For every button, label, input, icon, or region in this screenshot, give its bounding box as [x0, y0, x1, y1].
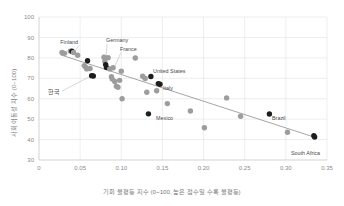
y-tick-label: 100: [24, 14, 35, 20]
y-axis-title: 사회 이동성 지수 (0~100): [10, 69, 18, 138]
data-point: [119, 96, 124, 101]
data-point: [285, 130, 290, 135]
y-tick-label: 80: [27, 55, 34, 61]
data-point: [133, 55, 138, 60]
point-label-mexico: Mexico: [156, 115, 173, 121]
data-point: [238, 114, 243, 119]
data-point: [115, 85, 120, 90]
x-tick-label: 0.10: [115, 165, 127, 171]
data-point: [202, 125, 207, 130]
data-point-highlighted: [146, 111, 151, 116]
data-point: [110, 65, 115, 70]
data-point: [154, 88, 159, 93]
x-tick-label: 0.35: [321, 165, 333, 171]
data-point: [75, 53, 80, 58]
y-tick-label: 90: [27, 35, 34, 41]
y-tick-label: 30: [27, 157, 34, 163]
data-point-highlighted: [91, 73, 96, 78]
x-axis-title: 기회 불평등 지수 (0~100, 높은 점수일 수록 불평등): [103, 188, 240, 196]
x-tick-label: 0.25: [239, 165, 251, 171]
point-label-finland: Finland: [60, 39, 78, 45]
y-tick-label: 40: [27, 137, 34, 143]
x-tick-label: 0.15: [157, 165, 169, 171]
data-point-highlighted: [312, 134, 317, 139]
point-label-united-states: United States: [153, 68, 186, 74]
point-label-한국: 한국: [48, 88, 60, 96]
y-tick-label: 50: [27, 116, 34, 122]
x-tick-label: 0.30: [280, 165, 292, 171]
data-point: [62, 51, 67, 56]
data-point: [188, 108, 193, 113]
x-tick-label: 0.20: [198, 165, 210, 171]
data-point-highlighted: [148, 74, 153, 79]
data-point: [105, 55, 110, 60]
point-label-italy: Italy: [163, 85, 173, 91]
data-point: [224, 95, 229, 100]
point-label-brazil: Brazil: [272, 115, 285, 121]
data-point: [119, 68, 124, 73]
data-point: [144, 89, 149, 94]
chart-background: [0, 0, 344, 206]
data-point-highlighted: [157, 82, 162, 87]
chart-canvas: 30405060708090100 00.050.100.150.200.250…: [0, 0, 344, 206]
data-point-highlighted: [85, 58, 90, 63]
data-point: [165, 101, 170, 106]
y-tick-label: 70: [27, 75, 34, 81]
y-tick-label: 60: [27, 96, 34, 102]
point-label-france: France: [120, 46, 137, 52]
data-point: [112, 79, 117, 84]
point-label-south-africa: South Africa: [291, 150, 320, 156]
data-point: [117, 78, 122, 83]
data-point: [87, 66, 92, 71]
point-label-germany: Germany: [106, 37, 128, 43]
scatter-chart: 30405060708090100 00.050.100.150.200.250…: [0, 0, 344, 206]
data-point: [142, 76, 147, 81]
x-tick-label: 0.05: [74, 165, 86, 171]
